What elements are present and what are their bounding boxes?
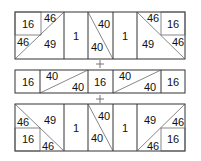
dissection-diagram: 16 46 46 49 1 40 40 1 46 16 49 46 16 40 … (0, 0, 201, 161)
area-label: 16 (22, 18, 34, 30)
area-label: 40 (72, 81, 84, 93)
area-label: 16 (167, 18, 179, 30)
plus-operator (96, 60, 104, 68)
area-label: 16 (22, 133, 34, 145)
area-label: 40 (91, 132, 103, 144)
area-label: 40 (98, 110, 110, 122)
area-label: 1 (122, 122, 128, 134)
area-label: 46 (172, 116, 184, 128)
area-label: 16 (167, 76, 179, 88)
area-label: 49 (144, 114, 156, 126)
area-label: 46 (147, 140, 159, 152)
area-label: 40 (144, 81, 156, 93)
area-label: 1 (122, 30, 128, 42)
area-label: 46 (17, 116, 29, 128)
area-label: 40 (119, 70, 131, 82)
area-label: 1 (73, 30, 79, 42)
area-label: 46 (44, 12, 56, 24)
area-label: 46 (147, 12, 159, 24)
area-label: 1 (73, 122, 79, 134)
area-label: 16 (94, 76, 106, 88)
middle-block: 16 40 40 16 40 40 16 (15, 70, 185, 93)
area-label: 40 (98, 18, 110, 30)
area-label: 49 (142, 38, 154, 50)
area-label: 16 (22, 76, 34, 88)
top-block: 16 46 46 49 1 40 40 1 46 16 49 46 (15, 12, 185, 59)
area-label: 46 (42, 140, 54, 152)
area-label: 46 (17, 36, 29, 48)
area-label: 40 (46, 70, 58, 82)
area-label: 49 (44, 114, 56, 126)
bottom-block: 46 49 16 46 1 40 40 1 49 46 16 46 (15, 104, 185, 152)
area-label: 16 (167, 133, 179, 145)
area-label: 46 (172, 36, 184, 48)
area-label: 49 (44, 38, 56, 50)
plus-operator (96, 95, 104, 103)
area-label: 40 (91, 41, 103, 53)
